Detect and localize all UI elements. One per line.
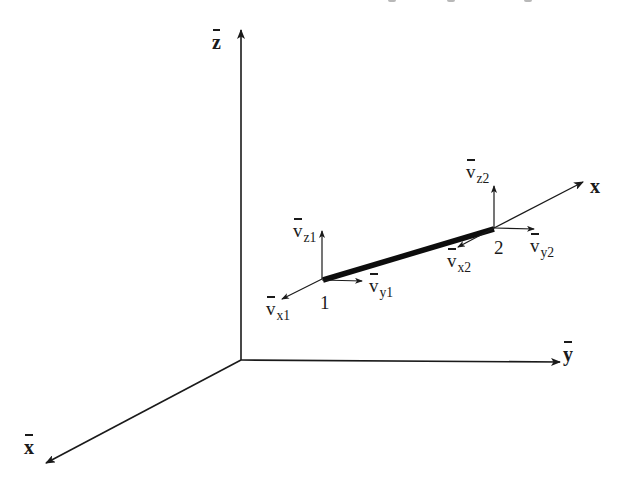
z-bar-label: z (212, 32, 221, 52)
node-2-label: 2 (494, 238, 504, 257)
vy1-label: vy1 (369, 276, 393, 299)
vy2-label: vy2 (530, 236, 554, 259)
local-x-label: x (590, 176, 600, 196)
vy2-arrow (494, 228, 534, 229)
vx2-label: vx2 (447, 251, 471, 274)
y-bar-axis (241, 360, 560, 362)
global-axes (46, 30, 560, 463)
vx1-label: vx1 (266, 299, 290, 322)
y-bar-label: y (563, 344, 573, 364)
x-bar-axis (46, 360, 241, 463)
x-bar-label: x (24, 437, 34, 457)
vx1-arrow (282, 279, 322, 299)
vz2-label: vz2 (466, 162, 489, 185)
vz1-label: vz1 (293, 221, 316, 244)
node-1-label: 1 (320, 293, 330, 312)
